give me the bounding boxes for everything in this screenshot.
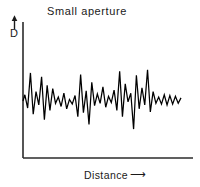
plot-area — [0, 0, 200, 187]
figure-title: Small aperture — [47, 5, 127, 17]
x-axis-label-group: Distance⟶ — [84, 168, 146, 181]
y-axis-label: D — [10, 28, 18, 39]
right-arrow-icon: ⟶ — [130, 168, 146, 180]
signal-trace — [23, 70, 181, 129]
x-axis-label-text: Distance — [84, 169, 128, 181]
densitometer-trace-figure: Small aperture D Distance⟶ — [0, 0, 200, 187]
